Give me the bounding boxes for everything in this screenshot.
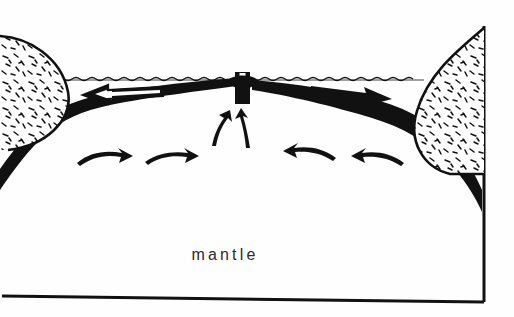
convection-arrow-left-inner [145, 148, 199, 165]
lithosphere-slab-band [0, 72, 482, 212]
convection-arrow-right-outer [351, 148, 404, 166]
upwelling-arrow-left [212, 110, 232, 146]
convection-arrow-right-inner [283, 143, 336, 161]
cross-section-illustration [0, 0, 514, 317]
left-continental-block [0, 30, 80, 154]
upwelling-arrow-right [235, 108, 250, 148]
convection-arrow-left-outer [77, 148, 133, 166]
mantle-label: mantle [0, 246, 450, 264]
right-continental-block [405, 24, 489, 176]
diagram-canvas: mantle [0, 0, 514, 317]
